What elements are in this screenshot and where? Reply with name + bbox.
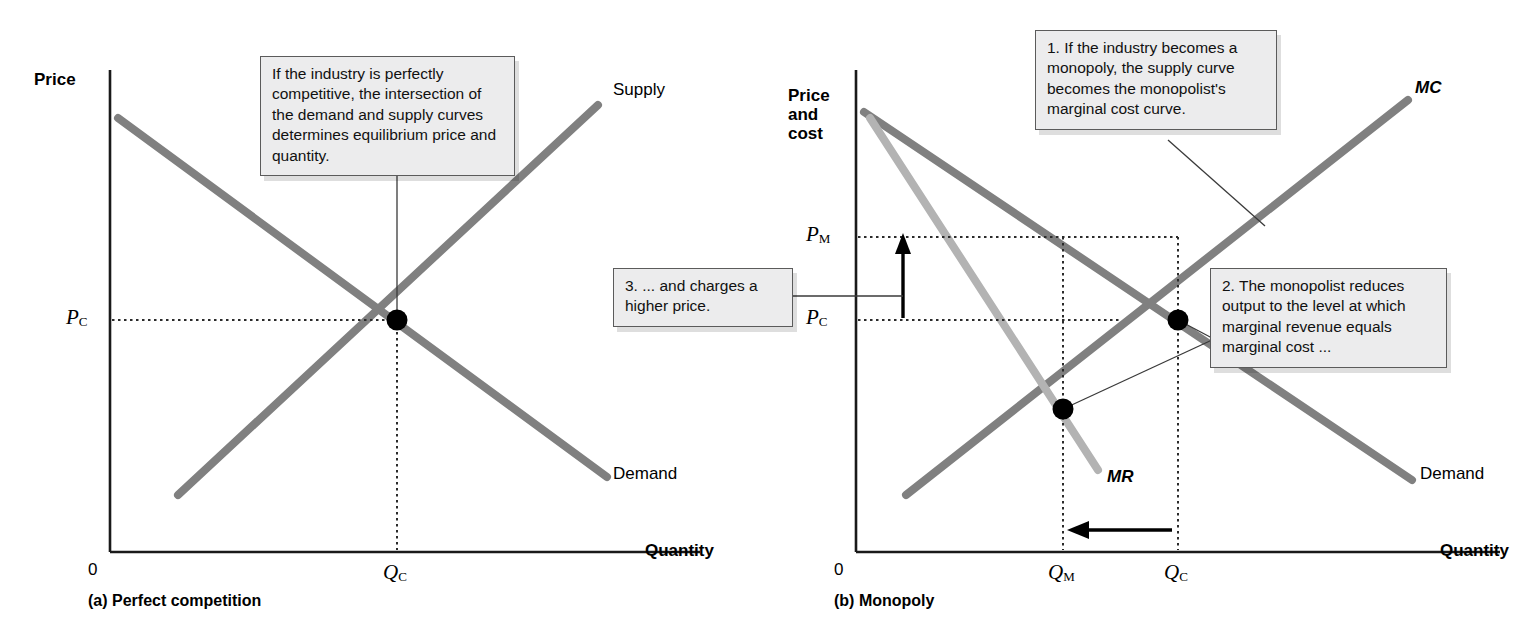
- economics-figure: If the industry is perfectly competitive…: [0, 0, 1520, 630]
- callout-charges-higher-price: 3. ... and charges a higher price.: [613, 268, 793, 327]
